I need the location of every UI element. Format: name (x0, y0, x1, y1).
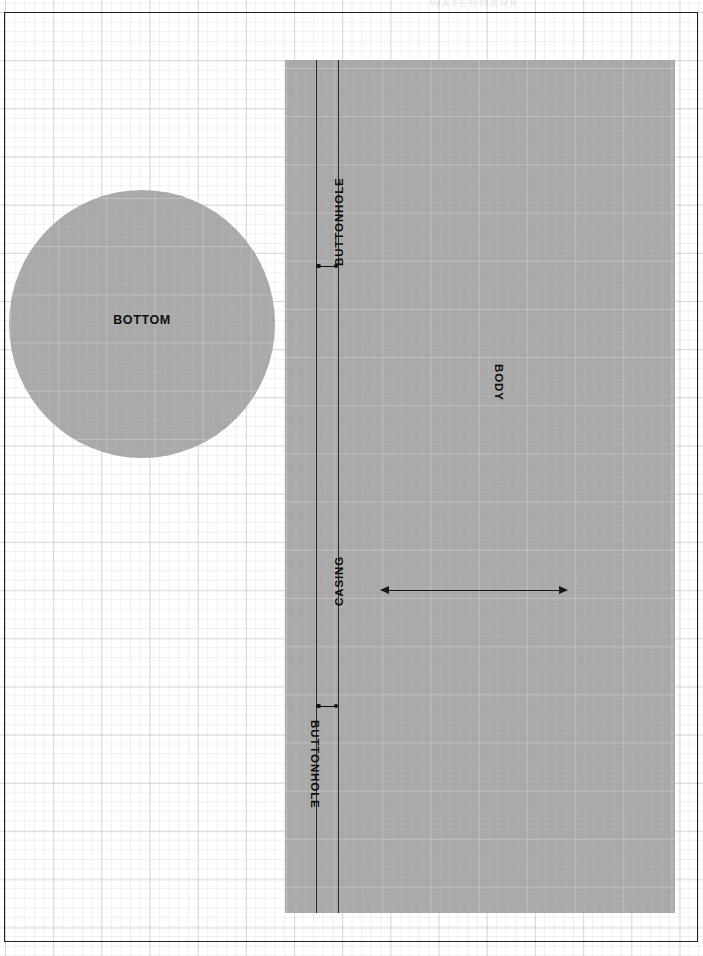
buttonhole-endpoint-dot (334, 704, 339, 709)
pattern-piece-bottom-label: BOTTOM (9, 313, 275, 327)
pattern-piece-body: BUTTONHOLE CASING BUTTONHOLE BODY (285, 60, 675, 913)
page-watermark: WATERMARK (430, 0, 650, 11)
buttonhole-top-label: BUTTONHOLE (333, 177, 345, 266)
casing-label: CASING (333, 556, 345, 606)
arrow-head-right-icon (559, 586, 568, 594)
pattern-page: WATERMARK BOTTOM BUTTONHOLE CASING BUTTO… (0, 0, 703, 956)
pattern-piece-bottom: BOTTOM (9, 190, 275, 458)
arrow-shaft (386, 590, 562, 591)
buttonhole-bottom-label: BUTTONHOLE (309, 720, 321, 809)
width-dimension-arrow (380, 584, 568, 596)
pattern-piece-body-label: BODY (493, 364, 505, 401)
buttonhole-marker-bottom (316, 701, 338, 711)
